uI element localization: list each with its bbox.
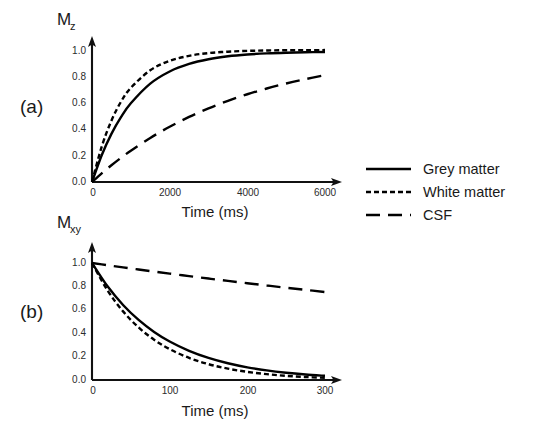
panel-b-xtick-labels: 0 100 200 300 xyxy=(90,385,334,396)
panel-a-ytick-3: 0.6 xyxy=(72,97,86,108)
panel-a-curve-grey-matter xyxy=(92,52,325,182)
panel-a-ytick-5: 1.0 xyxy=(72,45,86,56)
legend-item-white-matter[interactable]: White matter xyxy=(366,184,505,200)
panel-b-curve-grey-matter xyxy=(92,263,325,376)
panel-a-xtick-2: 4000 xyxy=(237,187,260,198)
panel-a-xtick-labels: 0 2000 4000 6000 xyxy=(90,187,336,198)
panel-b-curve-white-matter xyxy=(92,263,325,378)
panel-b-y-axis-title: M xy xyxy=(57,213,82,235)
panel-a-y-axis-title: M z xyxy=(57,10,76,32)
panel-a-xtick-0: 0 xyxy=(90,187,96,198)
legend-label-csf: CSF xyxy=(423,207,452,223)
panel-b-ytick-0: 0.0 xyxy=(72,374,86,385)
panel-a-curve-white-matter xyxy=(92,50,325,182)
figure-root: (a) M z 1.0 0.8 0.6 0.4 0.2 0.0 0 2000 4… xyxy=(0,0,554,432)
panel-b-xtick-0: 0 xyxy=(90,385,96,396)
panel-a-ytick-labels: 1.0 0.8 0.6 0.4 0.2 0.0 xyxy=(72,45,86,187)
legend: Grey matter White matter CSF xyxy=(366,161,505,223)
legend-label-white-matter: White matter xyxy=(423,184,505,200)
panel-a: (a) M z 1.0 0.8 0.6 0.4 0.2 0.0 0 2000 4… xyxy=(20,10,342,220)
panel-a-ytick-2: 0.4 xyxy=(72,123,86,134)
panel-b-xtick-2: 200 xyxy=(240,385,257,396)
panel-b-ytick-2: 0.4 xyxy=(72,327,86,338)
legend-item-csf[interactable]: CSF xyxy=(366,207,452,223)
panel-b-ytick-4: 0.8 xyxy=(72,280,86,291)
panel-b-xlabel: Time (ms) xyxy=(182,402,249,419)
panel-a-ytick-4: 0.8 xyxy=(72,71,86,82)
panel-a-xlabel: Time (ms) xyxy=(182,203,249,220)
panel-b-ytick-5: 1.0 xyxy=(72,257,86,268)
panel-a-ytick-1: 0.2 xyxy=(72,150,86,161)
panel-a-xtick-3: 6000 xyxy=(314,187,337,198)
panel-b: (b) M xy 1.0 0.8 0.6 0.4 0.2 0.0 0 100 2… xyxy=(20,213,342,419)
panel-a-label: (a) xyxy=(20,96,43,117)
legend-item-grey-matter[interactable]: Grey matter xyxy=(366,161,500,177)
panel-b-curve-csf xyxy=(92,263,325,292)
panel-a-ytick-0: 0.0 xyxy=(72,176,86,187)
panel-a-ylabel-subscript: z xyxy=(70,20,76,32)
panel-b-ytick-3: 0.6 xyxy=(72,303,86,314)
panel-b-xtick-1: 100 xyxy=(162,385,179,396)
panel-a-xtick-1: 2000 xyxy=(159,187,182,198)
panel-b-ytick-labels: 1.0 0.8 0.6 0.4 0.2 0.0 xyxy=(72,257,86,385)
figure-svg: (a) M z 1.0 0.8 0.6 0.4 0.2 0.0 0 2000 4… xyxy=(0,0,554,432)
panel-b-ytick-1: 0.2 xyxy=(72,350,86,361)
panel-b-ylabel-subscript: xy xyxy=(70,223,82,235)
panel-b-curves xyxy=(92,263,325,378)
panel-b-label: (b) xyxy=(20,301,43,322)
panel-b-xtick-3: 300 xyxy=(317,385,334,396)
legend-label-grey-matter: Grey matter xyxy=(423,161,500,177)
panel-a-curves xyxy=(92,50,325,182)
